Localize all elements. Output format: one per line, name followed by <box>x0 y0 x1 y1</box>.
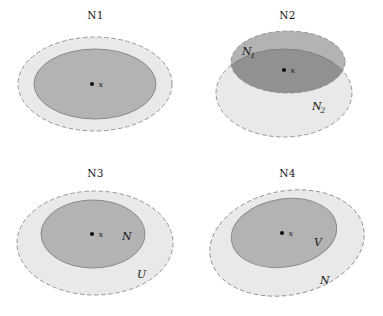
panel-n3: N3 x N U <box>0 158 191 316</box>
point-x-marker <box>90 232 94 236</box>
set-n2-label-subscript: 2 <box>320 106 326 115</box>
set-v-label: V <box>314 236 323 249</box>
point-x-label: x <box>289 229 294 238</box>
point-x-marker <box>90 82 94 86</box>
point-x-label: x <box>99 230 104 239</box>
point-x-label: x <box>99 80 104 89</box>
panel-n3-diagram: x N U <box>0 158 191 316</box>
point-x-label: x <box>291 66 296 75</box>
set-n-label: N <box>319 274 330 287</box>
panel-n1-diagram: x <box>0 0 191 158</box>
panel-n4: N4 x V N <box>192 158 383 316</box>
neighborhood-axioms-figure: N1 x N2 N 1 N 2 <box>0 0 383 316</box>
panel-n2: N2 N 1 N 2 x <box>192 0 383 158</box>
set-n1-label-subscript: 1 <box>251 51 256 60</box>
set-n-label: N <box>121 230 132 243</box>
inner-set-shape <box>34 49 156 119</box>
point-x-marker <box>280 231 284 235</box>
panel-n4-diagram: x V N <box>192 158 383 316</box>
point-x-marker <box>282 68 286 72</box>
panel-n1: N1 x <box>0 0 191 158</box>
panel-n2-diagram: N 1 N 2 x <box>192 0 383 158</box>
set-u-label: U <box>137 268 147 281</box>
